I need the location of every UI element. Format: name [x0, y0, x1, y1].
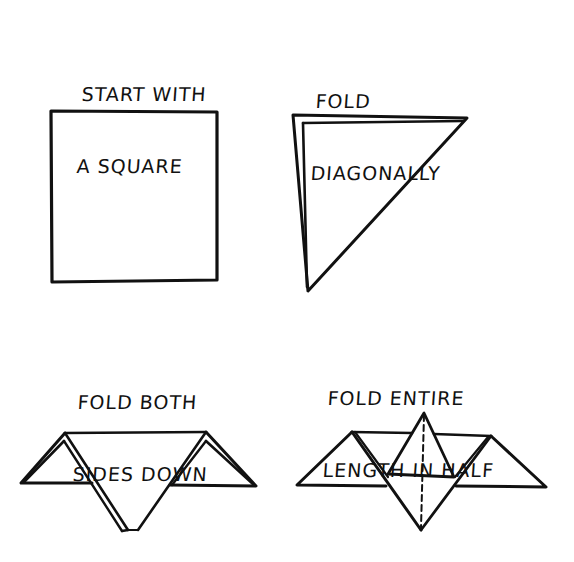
step-2-triangle-figure: [293, 115, 467, 291]
step-3-sides-down-figure: [21, 432, 256, 531]
diagram-canvas: [0, 0, 574, 562]
step-1-square-figure: [51, 111, 217, 282]
dashed-fold-line: [421, 415, 424, 528]
step-4-folded-half-figure: [297, 413, 546, 530]
